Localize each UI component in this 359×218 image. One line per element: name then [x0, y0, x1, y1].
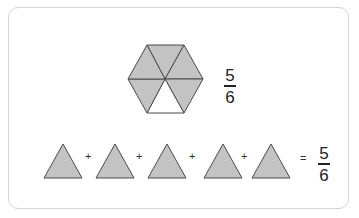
plus-sign-2: + — [136, 150, 142, 162]
fraction-bar — [224, 85, 236, 87]
fraction-diagram — [0, 0, 359, 218]
plus-sign-4: + — [241, 150, 247, 162]
plus-sign-3: + — [189, 150, 195, 162]
result-numerator: 5 — [319, 145, 328, 162]
hexagon-fraction: 5 6 — [224, 67, 236, 106]
triangles-row — [44, 144, 290, 178]
result-denominator: 6 — [319, 167, 328, 184]
result-fraction: 5 6 — [318, 145, 330, 184]
fraction-denominator: 6 — [225, 89, 234, 106]
fraction-numerator: 5 — [225, 67, 234, 84]
hexagon-shape — [128, 45, 203, 113]
triangle-1 — [44, 144, 82, 178]
plus-sign-1: + — [85, 150, 91, 162]
triangle-5 — [252, 144, 290, 178]
triangle-2 — [96, 144, 134, 178]
triangle-3 — [148, 144, 186, 178]
equals-sign: = — [300, 152, 306, 164]
triangle-4 — [204, 144, 242, 178]
result-fraction-bar — [318, 163, 330, 165]
